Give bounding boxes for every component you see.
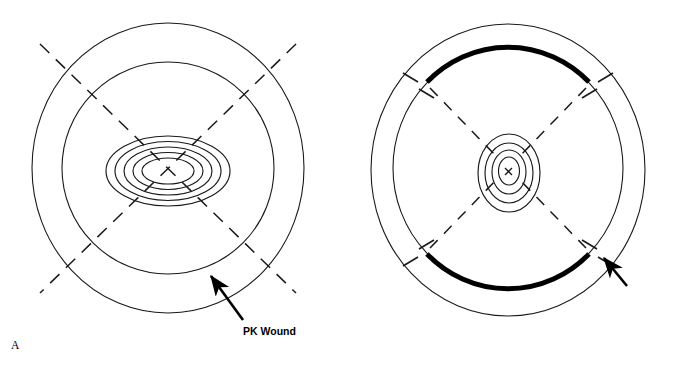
figure-pk-wound-comparison: A PK Wound <box>0 0 682 370</box>
panel-b-ring-1 <box>478 134 540 212</box>
panel-a-callout-label: PK Wound <box>243 325 296 338</box>
panel-b-tick-inner-se <box>582 240 597 249</box>
panel-b-center-rings <box>478 134 540 212</box>
panel-b-outer-circle <box>371 24 645 316</box>
panel-b-tick-outer-nw <box>403 73 418 82</box>
panel-b-spoke-se <box>518 178 586 248</box>
panel-b-top-wound-arc <box>427 47 589 82</box>
panel-b-inner-circle <box>393 48 623 288</box>
panel-a-ring-5 <box>142 158 194 184</box>
panel-b: B PK Wound <box>341 0 682 370</box>
panel-b-dashed-spokes <box>430 88 586 248</box>
panel-b-callout-arrow <box>604 258 627 286</box>
panel-a-callout-arrow <box>211 276 243 320</box>
panel-a-letter: A <box>11 339 20 351</box>
panel-b-thick-arcs <box>427 47 589 289</box>
panel-a-ring-3 <box>124 147 212 195</box>
panel-b-spoke-ne <box>518 88 586 158</box>
panel-b-tick-outer-ne <box>598 73 613 82</box>
panel-b-spoke-nw <box>430 88 498 158</box>
panel-a: A PK Wound <box>0 0 341 370</box>
panel-b-center-x-marker <box>505 168 512 175</box>
panel-b-tick-inner-sw <box>419 240 434 249</box>
panel-b-tick-outer-sw <box>403 257 418 266</box>
panel-b-bottom-wound-arc <box>427 254 589 289</box>
panel-a-center-rings <box>106 136 230 206</box>
panel-a-ring-2 <box>115 142 221 201</box>
panel-a-graphic <box>0 0 341 370</box>
panel-a-dashed-crosshairs <box>40 44 296 293</box>
panel-b-graphic <box>341 0 682 370</box>
panel-b-tick-marks <box>403 73 613 266</box>
